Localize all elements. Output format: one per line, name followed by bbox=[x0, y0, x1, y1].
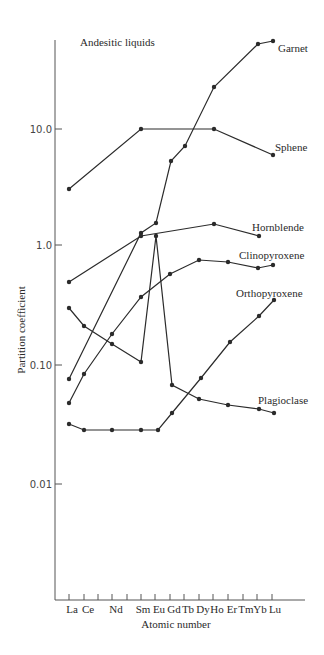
x-ticks bbox=[69, 594, 272, 600]
xtick-nd: Nd bbox=[109, 603, 123, 615]
series-hornblende bbox=[67, 222, 261, 284]
xtick-tb: Tb bbox=[182, 603, 195, 615]
xtick-ho: Ho bbox=[210, 603, 224, 615]
y-axis-title: Partition coefficient bbox=[15, 286, 27, 373]
series-orthopyroxene bbox=[67, 298, 276, 432]
xtick-dy: Dy bbox=[196, 603, 210, 615]
label-plagioclase: Plagioclase bbox=[258, 394, 308, 406]
xtick-eu: Eu bbox=[153, 603, 166, 615]
series-plagioclase bbox=[67, 234, 276, 415]
label-hornblende: Hornblende bbox=[252, 221, 304, 233]
xtick-er: Er bbox=[227, 603, 238, 615]
xtick-la: La bbox=[66, 603, 78, 615]
y-ticks: 10.0 1.0 0.10 0.01 bbox=[30, 124, 62, 490]
label-sphene: Sphene bbox=[275, 141, 308, 153]
xtick-gd: Gd bbox=[167, 603, 181, 615]
ytick-0.1: 0.10 bbox=[30, 360, 52, 371]
x-axis-title: Atomic number bbox=[141, 618, 211, 630]
label-orthopyroxene: Orthopyroxene bbox=[236, 287, 303, 299]
ytick-1: 1.0 bbox=[36, 240, 52, 251]
label-garnet: Garnet bbox=[278, 42, 308, 54]
ytick-10: 10.0 bbox=[30, 124, 52, 135]
xtick-tm: Tm bbox=[238, 603, 254, 615]
xtick-ce: Ce bbox=[82, 603, 94, 615]
xtick-lu: Lu bbox=[269, 603, 282, 615]
chart-title: Andesitic liquids bbox=[80, 36, 155, 48]
xtick-yb: Yb bbox=[253, 603, 267, 615]
ytick-0.01: 0.01 bbox=[30, 479, 52, 490]
rare-earth-partition-chart: 10.0 1.0 0.10 0.01 La Ce Nd Sm Eu Gd Tb … bbox=[0, 0, 324, 655]
label-clinopyroxene: Clinopyroxene bbox=[239, 249, 304, 261]
xtick-sm: Sm bbox=[136, 603, 151, 615]
x-tick-labels: La Ce Nd Sm Eu Gd Tb Dy Ho Er Tm Yb Lu bbox=[66, 603, 281, 615]
